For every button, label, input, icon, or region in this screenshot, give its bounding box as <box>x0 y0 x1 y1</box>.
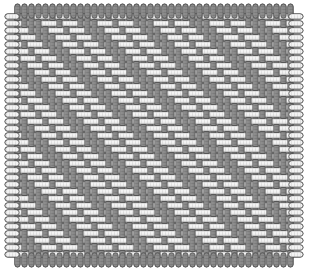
weave-diagram <box>0 0 314 277</box>
weave-canvas <box>0 0 314 277</box>
